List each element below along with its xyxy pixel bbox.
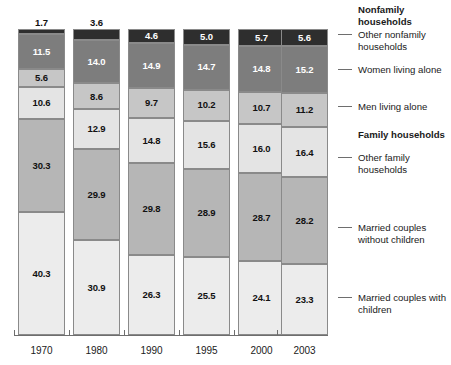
- segment-value: 28.9: [197, 208, 215, 218]
- segment: 5.7: [238, 29, 285, 46]
- segment: 5.0: [183, 29, 230, 44]
- segment: 5.6: [281, 29, 328, 46]
- segment: 10.7: [238, 92, 285, 125]
- legend-entry-men-living-alone: Men living alone: [358, 101, 451, 113]
- segment-value: 5.0: [200, 32, 213, 42]
- segment-value: 10.2: [197, 100, 215, 110]
- segment-value-outside: 1.7: [19, 17, 64, 28]
- segment: 24.1: [238, 261, 285, 335]
- segment: 28.2: [281, 177, 328, 263]
- segment: 14.9: [128, 43, 175, 89]
- segment-value: 11.2: [296, 105, 314, 115]
- legend-connector-line: [338, 227, 352, 228]
- bar-column: 40.330.310.65.611.51.7: [18, 29, 65, 335]
- segment-value: 26.3: [142, 290, 160, 300]
- bar-column: 24.128.716.010.714.85.7: [238, 29, 285, 335]
- x-axis-label-1990: 1990: [128, 345, 175, 356]
- segment: 23.3: [281, 264, 328, 335]
- segment-value-outside: 3.6: [74, 17, 119, 28]
- segment: 15.2: [281, 46, 328, 93]
- legend-entry-other-nonfamily-households: Other nonfamily households: [358, 29, 451, 52]
- segment-value: 12.9: [87, 124, 105, 134]
- bar-column: 25.528.915.610.214.75.0: [183, 29, 230, 335]
- legend-group-family-households: Family households: [358, 129, 451, 141]
- segment-value: 8.6: [90, 92, 103, 102]
- segment-value: 4.6: [145, 31, 158, 41]
- bar-column: 26.329.814.89.714.94.6: [128, 29, 175, 335]
- segment-value: 5.6: [35, 73, 48, 83]
- segment-value: 14.9: [142, 61, 160, 71]
- segment-value: 16.0: [252, 144, 270, 154]
- x-axis-label-1980: 1980: [73, 345, 120, 356]
- segment: 25.5: [183, 257, 230, 335]
- segment: 30.3: [18, 119, 65, 212]
- segment-value: 14.7: [197, 62, 215, 72]
- segment-value: 28.2: [295, 216, 313, 226]
- segment-value: 29.8: [142, 204, 160, 214]
- legend-connector-line: [338, 297, 352, 298]
- x-axis-label-2000: 2000: [238, 345, 285, 356]
- segment: 16.4: [281, 127, 328, 177]
- bar-1970: 40.330.310.65.611.51.7: [18, 29, 65, 335]
- segment-value: 15.2: [295, 65, 313, 75]
- segment-value: 24.1: [252, 293, 270, 303]
- legend-connector-line: [338, 69, 352, 70]
- segment-value: 9.7: [145, 98, 158, 108]
- x-axis-label-2003: 2003: [281, 345, 328, 356]
- bar-2003: 23.328.216.411.215.25.6: [281, 29, 328, 335]
- segment: 29.9: [73, 149, 120, 240]
- segment: 5.6: [18, 69, 65, 86]
- segment-value: 5.7: [255, 33, 268, 43]
- segment: 14.8: [238, 46, 285, 91]
- segment-value: 40.3: [32, 269, 50, 279]
- segment: 28.9: [183, 169, 230, 257]
- segment: 12.9: [73, 109, 120, 148]
- bar-column: 23.328.216.411.215.25.6: [281, 29, 328, 335]
- segment-value: 10.7: [252, 103, 270, 113]
- x-axis-label-1970: 1970: [18, 345, 65, 356]
- segment-value: 23.3: [295, 295, 313, 305]
- segment-value: 10.6: [32, 98, 50, 108]
- segment-value: 14.0: [87, 57, 105, 67]
- legend-entry-married-couples-with-children: Married couples with children: [358, 292, 451, 315]
- bar-2000: 24.128.716.010.714.85.7: [238, 29, 285, 335]
- legend-entry-married-couples-without-children: Married couples without children: [358, 222, 451, 245]
- segment: 9.7: [128, 88, 175, 118]
- chart-legend: Nonfamily householdsOther nonfamily hous…: [330, 0, 429, 365]
- segment: 11.2: [281, 93, 328, 127]
- segment-value: 14.8: [252, 64, 270, 74]
- legend-connector-line: [338, 106, 352, 107]
- bar-1990: 26.329.814.89.714.94.6: [128, 29, 175, 335]
- segment-value: 30.9: [87, 283, 105, 293]
- segment: 26.3: [128, 255, 175, 335]
- segment-value: 14.8: [142, 136, 160, 146]
- segment-value: 16.4: [295, 148, 313, 158]
- segment: 14.7: [183, 45, 230, 90]
- segment: 30.9: [73, 240, 120, 335]
- segment: 3.6: [73, 29, 120, 40]
- segment: 4.6: [128, 29, 175, 43]
- segment: 11.5: [18, 34, 65, 69]
- x-axis-line: [14, 335, 328, 336]
- segment-value: 15.6: [197, 140, 215, 150]
- segment: 1.7: [18, 29, 65, 34]
- segment: 14.8: [128, 118, 175, 163]
- segment-value: 11.5: [33, 47, 51, 57]
- segment: 10.2: [183, 90, 230, 121]
- bar-1995: 25.528.915.610.214.75.0: [183, 29, 230, 335]
- legend-connector-line: [338, 34, 352, 35]
- segment: 15.6: [183, 121, 230, 169]
- segment: 14.0: [73, 40, 120, 83]
- segment: 8.6: [73, 83, 120, 109]
- bar-1980: 30.929.912.98.614.03.6: [73, 29, 120, 335]
- bar-column: 30.929.912.98.614.03.6: [73, 29, 120, 335]
- legend-connector-line: [338, 157, 352, 158]
- segment: 28.7: [238, 173, 285, 261]
- segment: 40.3: [18, 212, 65, 335]
- segment-value: 25.5: [197, 291, 215, 301]
- x-axis-label-1995: 1995: [183, 345, 230, 356]
- legend-entry-women-living-alone: Women living alone: [358, 64, 451, 76]
- segment-value: 5.6: [298, 33, 311, 43]
- legend-entry-other-family-households: Other family households: [358, 152, 451, 175]
- segment-value: 30.3: [32, 161, 50, 171]
